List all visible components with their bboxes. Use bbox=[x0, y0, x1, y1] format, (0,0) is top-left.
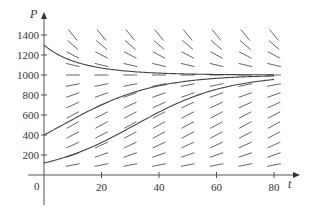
slope-segment bbox=[241, 30, 250, 41]
y-tick-label: 400 bbox=[23, 129, 40, 141]
slope-segment bbox=[210, 93, 223, 98]
slope-field bbox=[66, 30, 281, 167]
slope-segment bbox=[210, 164, 224, 167]
slope-segment bbox=[95, 164, 109, 167]
slope-segment bbox=[210, 122, 222, 129]
slope-segment bbox=[182, 40, 193, 49]
slope-segment bbox=[238, 164, 252, 167]
slope-segment bbox=[68, 30, 77, 41]
slope-segment bbox=[96, 40, 107, 49]
slope-segment bbox=[239, 142, 252, 148]
logistic-direction-field-chart: 20406080200400600800100012001400 t P 0 bbox=[0, 0, 309, 210]
y-axis-arrow-icon bbox=[41, 12, 47, 19]
slope-segment bbox=[239, 102, 252, 108]
slope-segment bbox=[210, 112, 222, 119]
slope-segment bbox=[66, 63, 80, 66]
x-tick-label: 60 bbox=[211, 181, 223, 193]
slope-segment bbox=[239, 153, 252, 158]
x-tick-label: 20 bbox=[96, 181, 108, 193]
y-tick-label: 1200 bbox=[17, 49, 40, 61]
slope-segment bbox=[124, 52, 136, 59]
slope-segment bbox=[153, 122, 165, 129]
slope-segment bbox=[267, 93, 280, 98]
slope-segment bbox=[95, 122, 107, 129]
slope-segment bbox=[123, 63, 137, 66]
slope-segment bbox=[181, 102, 194, 108]
slope-segment bbox=[66, 102, 79, 108]
slope-segment bbox=[95, 112, 107, 119]
slope-segment bbox=[152, 164, 166, 167]
slope-segment bbox=[210, 52, 222, 59]
slope-segment bbox=[66, 93, 79, 98]
slope-segment bbox=[153, 132, 165, 139]
slope-segment bbox=[97, 30, 106, 41]
slope-segment bbox=[95, 52, 107, 59]
slope-segment bbox=[95, 84, 109, 87]
slope-segment bbox=[67, 132, 79, 139]
slope-segment bbox=[239, 122, 251, 129]
slope-segment bbox=[181, 84, 195, 87]
slope-segment bbox=[267, 153, 280, 158]
slope-segment bbox=[268, 122, 280, 129]
slope-segment bbox=[268, 112, 280, 119]
slope-segment bbox=[181, 142, 194, 148]
y-tick-label: 1000 bbox=[17, 69, 40, 81]
slope-segment bbox=[239, 132, 251, 139]
slope-segment bbox=[155, 30, 164, 41]
slope-segment bbox=[268, 102, 281, 108]
slope-segment bbox=[123, 84, 137, 87]
slope-segment bbox=[268, 132, 280, 139]
slope-segment bbox=[210, 142, 223, 148]
slope-segment bbox=[181, 164, 195, 167]
slope-segment bbox=[124, 142, 137, 148]
slope-segment bbox=[210, 102, 223, 108]
slope-segment bbox=[239, 93, 252, 98]
slope-segment bbox=[153, 142, 166, 148]
slope-segment bbox=[95, 63, 109, 66]
slope-segment bbox=[124, 102, 137, 108]
slope-segment bbox=[123, 164, 137, 167]
slope-segment bbox=[67, 122, 79, 129]
slope-segment bbox=[239, 112, 251, 119]
slope-segment bbox=[210, 63, 224, 66]
x-axis-label: t bbox=[288, 177, 292, 191]
y-axis-label: P bbox=[29, 7, 38, 21]
slope-segment bbox=[154, 40, 165, 49]
axes bbox=[28, 12, 300, 205]
slope-segment bbox=[211, 40, 222, 49]
x-tick-label: 40 bbox=[154, 181, 166, 193]
slope-segment bbox=[268, 52, 280, 59]
slope-segment bbox=[268, 142, 281, 148]
slope-segment bbox=[152, 93, 165, 98]
slope-segment bbox=[212, 30, 221, 41]
origin-label: 0 bbox=[34, 180, 40, 192]
slope-segment bbox=[267, 164, 281, 167]
slope-segment bbox=[95, 93, 108, 98]
y-tick-label: 800 bbox=[23, 89, 40, 101]
solution-curve bbox=[44, 80, 274, 163]
x-tick-label: 80 bbox=[269, 181, 281, 193]
slope-segment bbox=[210, 84, 224, 87]
y-tick-label: 600 bbox=[23, 109, 40, 121]
slope-segment bbox=[66, 164, 80, 167]
slope-segment bbox=[182, 122, 194, 129]
slope-segment bbox=[182, 112, 194, 119]
slope-segment bbox=[239, 52, 251, 59]
slope-segment bbox=[124, 112, 136, 119]
slope-segment bbox=[124, 132, 136, 139]
slope-segment bbox=[240, 40, 251, 49]
slope-segment bbox=[95, 132, 107, 139]
slope-segment bbox=[66, 142, 79, 148]
slope-segment bbox=[67, 52, 79, 59]
slope-segment bbox=[152, 153, 165, 158]
slope-segment bbox=[95, 153, 108, 158]
slope-segment bbox=[153, 102, 166, 108]
solution-curve bbox=[44, 45, 274, 75]
x-axis-arrow-icon bbox=[293, 172, 300, 178]
slope-segment bbox=[124, 153, 137, 158]
slope-segment bbox=[66, 84, 80, 87]
slope-segment bbox=[181, 63, 195, 66]
slope-segment bbox=[153, 52, 165, 59]
slope-segment bbox=[210, 132, 222, 139]
slope-segment bbox=[270, 30, 279, 41]
